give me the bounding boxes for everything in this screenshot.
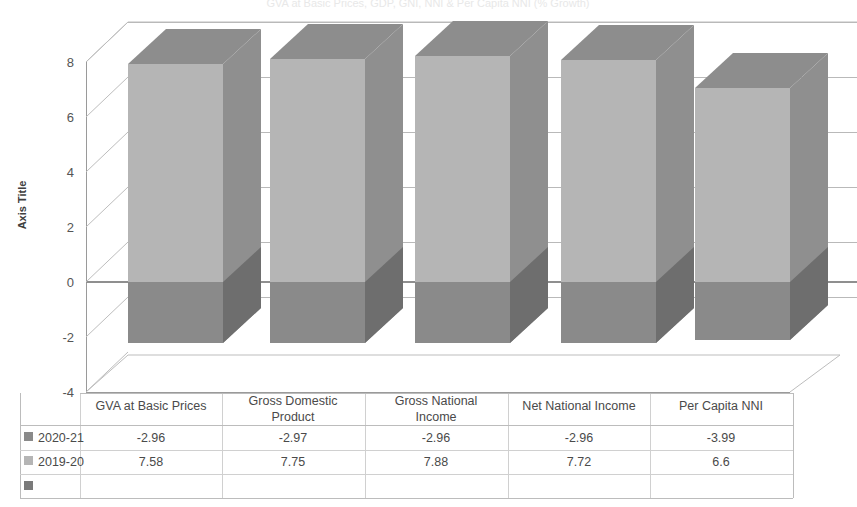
- table-cell: -3.99: [707, 431, 736, 445]
- table-cell: -2.96: [137, 431, 166, 445]
- gridline-minus-4: [86, 352, 128, 392]
- y-tick-label: 8: [67, 55, 74, 70]
- bar-net-national-income[interactable]: [561, 25, 694, 343]
- bar-per-capita-nni[interactable]: [695, 53, 828, 340]
- 3d-stacked-column-chart: GVA at Basic Prices, GDP, GNI, NNI & Per…: [0, 0, 857, 507]
- category-label: GVA at Basic Prices: [96, 399, 207, 413]
- chart-container: GVA at Basic Prices, GDP, GNI, NNI & Per…: [0, 0, 857, 507]
- table-cell: 7.75: [281, 455, 305, 469]
- category-label: Gross Domestic: [249, 394, 338, 408]
- legend-marker-2019-20: [24, 456, 33, 465]
- bar-gross-national-income[interactable]: [415, 21, 548, 343]
- legend-marker-2020-21: [24, 432, 33, 441]
- table-cell: -2.97: [279, 431, 308, 445]
- y-tick-label: -4: [62, 385, 74, 400]
- y-axis-title: Axis Title: [16, 181, 28, 230]
- category-label-line2: Income: [416, 410, 457, 424]
- y-axis-ticks: 8 6 4 2 0 -2 -4: [62, 55, 74, 400]
- category-label: Gross National: [395, 394, 478, 408]
- data-table-header-row: GVA at Basic Prices Gross Domestic Produ…: [96, 394, 763, 424]
- bars-group: [128, 21, 828, 343]
- table-cell: 6.6: [712, 455, 729, 469]
- table-row[interactable]: 2020-21 -2.96 -2.97 -2.96 -2.96 -3.99: [24, 431, 735, 445]
- legend-marker-blank-series: [24, 481, 33, 490]
- y-tick-label: -2: [62, 330, 74, 345]
- table-cell: -2.96: [422, 431, 451, 445]
- table-cell: 7.72: [567, 455, 591, 469]
- y-tick-label: 4: [67, 165, 74, 180]
- bar-gross-domestic-product[interactable]: [270, 24, 403, 343]
- table-cell: 7.88: [424, 455, 448, 469]
- series-label: 2019-20: [38, 455, 84, 469]
- chart-title: GVA at Basic Prices, GDP, GNI, NNI & Per…: [267, 0, 590, 9]
- y-tick-label: 6: [67, 110, 74, 125]
- y-tick-label: 2: [67, 220, 74, 235]
- y-tick-label: 0: [67, 275, 74, 290]
- series-label: 2020-21: [38, 431, 84, 445]
- bar-gva-at-basic-prices[interactable]: [128, 29, 261, 343]
- category-label-line2: Product: [271, 410, 315, 424]
- data-table: GVA at Basic Prices Gross Domestic Produ…: [20, 393, 793, 498]
- category-label: Net National Income: [522, 399, 635, 413]
- table-row[interactable]: [24, 481, 33, 490]
- category-label: Per Capita NNI: [679, 399, 763, 413]
- table-row[interactable]: 2019-20 7.58 7.75 7.88 7.72 6.6: [24, 455, 730, 469]
- table-cell: 7.58: [139, 455, 163, 469]
- table-cell: -2.96: [565, 431, 594, 445]
